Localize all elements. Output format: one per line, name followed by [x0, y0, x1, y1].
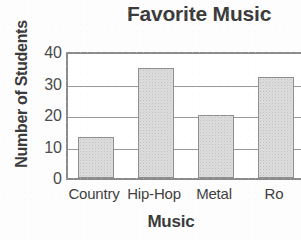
bar — [258, 77, 294, 178]
x-axis-tick-labels: CountryHip-HopMetalRo — [66, 182, 301, 208]
y-axis-tick-labels: 010203040 — [28, 52, 62, 180]
bar — [78, 137, 114, 178]
x-tick-label: Country — [64, 182, 124, 206]
y-tick-label: 0 — [32, 171, 62, 187]
y-tick-label: 10 — [32, 140, 62, 156]
plot-area — [66, 52, 301, 180]
y-tick-label: 30 — [32, 77, 62, 93]
x-tick-label: Ro — [244, 182, 301, 206]
y-tick-label: 40 — [32, 45, 62, 61]
x-tick-label: Metal — [184, 182, 244, 206]
x-axis-title: Music — [66, 210, 276, 234]
bar — [198, 115, 234, 178]
x-tick-label: Hip-Hop — [124, 182, 184, 206]
bar — [138, 68, 174, 178]
chart-title: Favorite Music — [104, 1, 294, 27]
bar-chart-figure: Favorite Music Number of Students 010203… — [0, 0, 301, 240]
y-tick-label: 20 — [32, 108, 62, 124]
